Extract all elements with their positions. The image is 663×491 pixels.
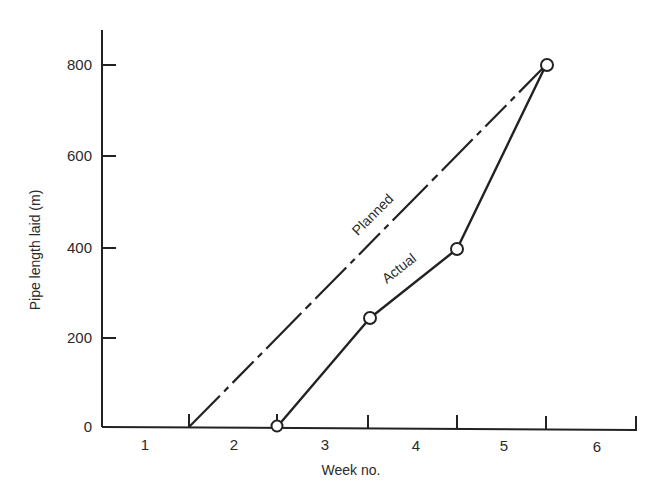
x-tick-label-6: 6 [593,438,601,455]
y-tick-label-600: 600 [67,147,92,164]
actual-point-week2 [272,421,283,432]
y-tick-label-200: 200 [67,329,92,346]
actual-label: Actual [379,250,420,287]
actual-point-week3 [364,312,376,324]
y-ticks [102,65,116,338]
y-tick-label-0: 0 [84,418,92,435]
planned-line [189,65,546,427]
actual-point-week4 [451,243,463,255]
actual-markers [272,59,554,432]
x-tick-label-1: 1 [141,436,149,453]
x-tick-label-5: 5 [500,437,508,454]
x-tick-label-2: 2 [230,436,238,453]
planned-label: Planned [349,191,397,239]
y-tick-label-400: 400 [67,239,92,256]
actual-point-week5 [541,59,553,71]
x-axis-title: Week no. [322,462,381,478]
axes [102,30,636,430]
actual-line [277,65,546,427]
x-tick-label-4: 4 [412,437,420,454]
y-axis-title: Pipe length laid (m) [27,190,43,311]
x-tick-label-3: 3 [321,436,329,453]
y-tick-label-800: 800 [67,56,92,73]
pipe-laying-chart: 800 600 400 200 0 1 2 3 4 5 6 Week no. P… [0,0,663,491]
